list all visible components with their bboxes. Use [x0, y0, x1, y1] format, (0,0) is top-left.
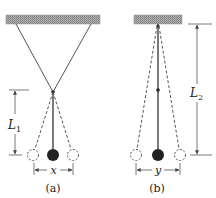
- length-label-l2: L2: [189, 86, 203, 102]
- displaced-bob-left-a: [28, 150, 39, 161]
- caption-a: (a): [45, 182, 60, 195]
- pendulum-bob-b: [152, 149, 164, 161]
- ceiling-a: [6, 15, 100, 24]
- length-dimension-l2: L2: [188, 24, 212, 155]
- displaced-bob-left-b: [131, 150, 142, 161]
- displaced-bob-right-a: [68, 150, 79, 161]
- displaced-bob-right-b: [175, 150, 186, 161]
- displaced-string-right-a: [53, 92, 71, 149]
- panel-b: L2 y (b): [131, 15, 213, 195]
- spacing-dimension-x: x: [34, 163, 73, 177]
- spacing-label-x: x: [50, 164, 57, 177]
- caption-b: (b): [149, 182, 165, 195]
- string-midpoint-b: [156, 88, 160, 92]
- support-string-left-a: [16, 24, 53, 92]
- displaced-string-left-a: [35, 92, 53, 149]
- spacing-label-y: y: [154, 164, 162, 177]
- spacing-dimension-y: y: [136, 163, 180, 177]
- pendulum-bob-a: [47, 149, 59, 161]
- length-dimension-l1: L1: [7, 90, 29, 155]
- support-string-right-a: [53, 24, 91, 92]
- displaced-string-left-b: [137, 26, 157, 149]
- panel-a: L1 x (a): [6, 15, 100, 195]
- ceiling-b: [134, 15, 182, 24]
- length-label-l1: L1: [7, 118, 21, 134]
- displaced-string-right-b: [159, 26, 179, 149]
- pendulum-diagram: L1 x (a) L2: [0, 0, 216, 198]
